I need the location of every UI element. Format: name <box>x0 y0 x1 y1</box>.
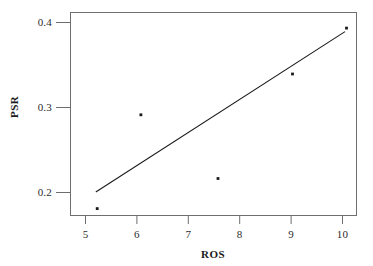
x-axis-title: ROS <box>201 248 225 260</box>
x-tick-label-7: 7 <box>185 228 191 240</box>
data-point-marker <box>345 27 348 30</box>
data-point-marker <box>96 207 99 210</box>
y-axis-ticks <box>56 23 71 193</box>
y-axis-title: PSR <box>8 96 20 118</box>
plot-frame <box>71 13 357 216</box>
y-tick-label-0.2: 0.2 <box>30 186 52 198</box>
plot-canvas <box>0 0 373 266</box>
data-point-marker <box>217 177 220 180</box>
x-axis-ticks <box>86 216 343 225</box>
scatter-plot-figure: 0.4 0.3 0.2 5 6 7 8 9 10 ROS PSR <box>0 0 373 266</box>
y-tick-label-0.3: 0.3 <box>30 101 52 113</box>
data-point-marker <box>140 113 143 116</box>
regression-trend-line <box>96 32 345 192</box>
x-tick-label-6: 6 <box>134 228 140 240</box>
data-point-marker <box>291 73 294 76</box>
y-tick-label-0.4: 0.4 <box>30 16 52 28</box>
x-tick-label-10: 10 <box>337 228 348 240</box>
x-tick-label-8: 8 <box>237 228 243 240</box>
x-tick-label-9: 9 <box>288 228 294 240</box>
x-tick-label-5: 5 <box>83 228 89 240</box>
